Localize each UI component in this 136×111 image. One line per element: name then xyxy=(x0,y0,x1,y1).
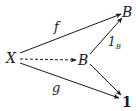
arrow-b-to-one xyxy=(90,64,121,95)
node-terminal-one: 1 xyxy=(122,94,132,110)
edge-label-f: f xyxy=(53,19,61,34)
edge-label-identity: 1B xyxy=(108,35,121,51)
arrow-dashed-x-to-b xyxy=(20,59,76,60)
node-b-middle: B xyxy=(77,52,88,68)
identity-subscript-b: B xyxy=(115,43,121,51)
edge-label-g: g xyxy=(52,80,60,95)
arrow-f xyxy=(20,14,121,53)
node-b-top: B xyxy=(121,4,132,20)
arrow-g xyxy=(20,63,119,98)
node-x: X xyxy=(5,50,17,66)
identity-one: 1 xyxy=(108,35,116,49)
commutative-diagram: X B B 1 f g 1B xyxy=(0,0,136,111)
